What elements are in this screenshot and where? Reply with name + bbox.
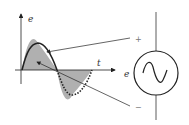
source-label: e	[124, 69, 129, 79]
minus-leader-arrow	[37, 62, 130, 106]
ac-source-symbol	[134, 51, 178, 95]
plus-leader-arrow	[47, 38, 130, 52]
plus-sign: +	[135, 35, 142, 44]
diagram-canvas: e t e + −	[0, 0, 189, 125]
x-axis-label: t	[97, 58, 101, 68]
minus-sign: −	[135, 103, 142, 112]
y-axis-label: e	[28, 14, 33, 24]
ac-source-diagram: e t e + −	[0, 0, 189, 125]
